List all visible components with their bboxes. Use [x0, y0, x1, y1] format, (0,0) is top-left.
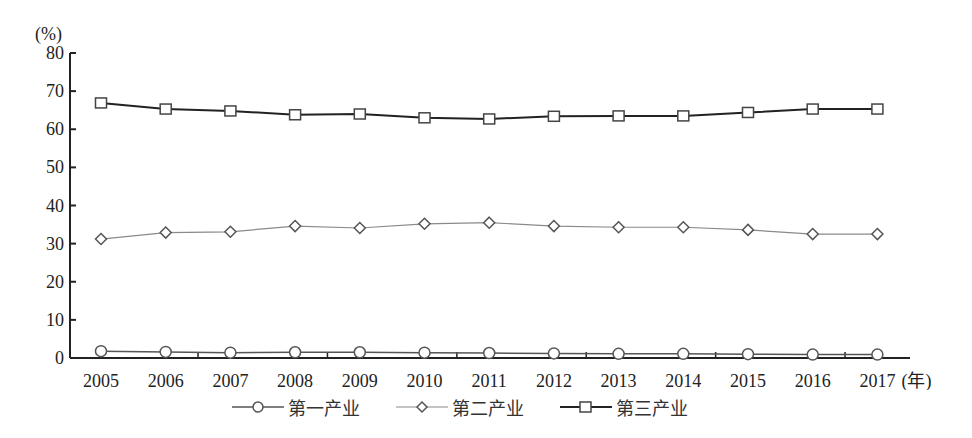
square-marker-icon — [290, 110, 301, 120]
circle-marker-icon — [613, 348, 624, 359]
circle-marker-icon — [96, 346, 107, 357]
series-layer — [96, 98, 883, 360]
y-tick-label: 30 — [46, 234, 64, 254]
legend-item-tertiary: 第三产业 — [560, 394, 688, 420]
y-tick-label: 10 — [46, 310, 64, 330]
x-tick-label: 2006 — [148, 371, 184, 390]
circle-marker-icon — [484, 348, 495, 359]
diamond-marker-icon — [96, 234, 107, 245]
diamond-marker-icon — [354, 222, 365, 233]
square-marker-icon — [678, 111, 689, 121]
diamond-marker-icon — [678, 222, 689, 233]
diamond-marker-icon — [419, 218, 430, 229]
y-tick-label: 70 — [46, 81, 64, 101]
diamond-marker-icon — [807, 229, 818, 240]
x-tick-label: 2005 — [83, 371, 119, 390]
diamond-marker-icon — [160, 227, 171, 238]
line-chart: 01020304050607080(%)20052006200720082009… — [0, 0, 972, 390]
diamond-marker-icon — [548, 221, 559, 232]
legend-label: 第三产业 — [616, 394, 688, 420]
circle-marker-icon — [290, 347, 301, 358]
x-tick-label: 2011 — [472, 371, 507, 390]
circle-marker-icon — [678, 348, 689, 359]
legend-item-secondary: 第二产业 — [396, 394, 524, 420]
circle-marker-icon — [354, 347, 365, 358]
circle-marker-icon — [419, 347, 430, 358]
x-tick-label: 2010 — [407, 371, 443, 390]
diamond-marker-icon — [872, 229, 883, 240]
x-tick-label: 2015 — [730, 371, 766, 390]
legend-label: 第二产业 — [452, 394, 524, 420]
square-marker-icon — [872, 104, 883, 114]
diamond-marker-icon — [743, 224, 754, 235]
diamond-marker-icon — [396, 400, 448, 414]
diamond-marker-icon — [225, 226, 236, 237]
square-marker-icon — [560, 400, 612, 414]
y-tick-label: 80 — [46, 43, 64, 63]
circle-marker-icon — [807, 349, 818, 360]
axes: 01020304050607080(%)20052006200720082009… — [35, 24, 931, 390]
x-tick-label: 2014 — [665, 371, 701, 390]
square-marker-icon — [160, 104, 171, 114]
x-axis-unit: (年) — [901, 371, 931, 390]
legend-label: 第一产业 — [288, 394, 360, 420]
y-tick-label: 0 — [55, 348, 64, 368]
circle-marker-icon — [160, 346, 171, 357]
legend-item-primary: 第一产业 — [232, 394, 360, 420]
x-tick-label: 2017 — [859, 371, 895, 390]
square-marker-icon — [419, 113, 430, 123]
y-tick-label: 40 — [46, 196, 64, 216]
square-marker-icon — [225, 106, 236, 116]
y-tick-label: 20 — [46, 272, 64, 292]
square-marker-icon — [354, 109, 365, 119]
square-marker-icon — [96, 98, 107, 108]
y-axis-unit: (%) — [35, 24, 62, 45]
circle-marker-icon — [548, 348, 559, 359]
square-marker-icon — [807, 104, 818, 114]
circle-marker-icon — [872, 349, 883, 360]
x-tick-label: 2007 — [212, 371, 248, 390]
diamond-marker-icon — [613, 222, 624, 233]
diamond-marker-icon — [290, 221, 301, 232]
square-marker-icon — [548, 111, 559, 121]
x-tick-label: 2016 — [795, 371, 831, 390]
y-tick-label: 50 — [46, 157, 64, 177]
x-tick-label: 2013 — [601, 371, 637, 390]
diamond-marker-icon — [484, 217, 495, 228]
x-tick-label: 2009 — [342, 371, 378, 390]
circle-marker-icon — [225, 347, 236, 358]
circle-marker-icon — [743, 349, 754, 360]
square-marker-icon — [484, 114, 495, 124]
square-marker-icon — [613, 111, 624, 121]
x-tick-label: 2008 — [277, 371, 313, 390]
circle-marker-icon — [232, 400, 284, 414]
square-marker-icon — [743, 107, 754, 117]
legend: 第一产业 第二产业 第三产业 — [232, 394, 688, 420]
y-tick-label: 60 — [46, 119, 64, 139]
x-tick-label: 2012 — [536, 371, 572, 390]
